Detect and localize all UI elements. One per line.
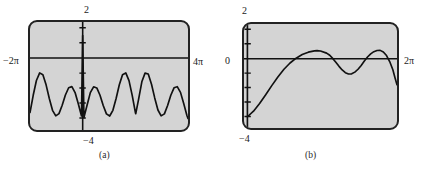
panel-a-label-right: 4π [193,57,203,67]
panel-a-plot [30,22,188,130]
panel-b-caption: (b) [305,151,316,161]
panel-b-label-left: 0 [225,56,230,66]
panel-a-label-bottom: −4 [83,136,94,146]
panel-a-curve [30,36,188,119]
panel-b-label-top: 2 [242,6,247,16]
panel-b-label-bottom: −4 [239,134,250,144]
panel-b: 2 −4 0 2π ( [214,0,427,176]
panel-b-label-right: 2π [404,56,414,66]
figure-two-graphing-calculator-screens: 2 −4 −2π 4π [0,0,427,176]
panel-b-plot [244,24,397,128]
panel-a-label-top: 2 [84,5,89,15]
panel-b-calculator-screen [242,22,399,130]
panel-a-label-left: −2π [3,56,19,66]
panel-a: 2 −4 −2π 4π [0,0,214,176]
panel-a-calculator-screen [28,20,190,132]
panel-a-caption: (a) [99,151,110,161]
panel-b-curve [247,50,397,116]
